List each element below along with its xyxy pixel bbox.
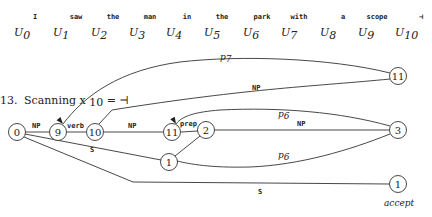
node-n11b: 11 [390,68,407,85]
node-label: 2 [203,125,209,136]
edge-2-3: NP [214,120,390,130]
edge-11b-9: p7 [57,52,390,126]
node-label: 11 [166,127,179,138]
accept-label: accept [384,198,415,208]
edge-label: prep [180,120,197,128]
step-label: Scanning x [24,94,87,107]
edge-line [181,131,198,132]
svg-text:13. Scanning x: 13. Scanning x 10 = ⊣ [0,94,129,109]
sentence-word: scope [366,13,387,21]
node-label: 11 [392,71,405,82]
node-n11a: 11 [164,124,181,141]
node-n2: 2 [198,122,215,139]
edge-10-11: NP [104,122,163,132]
sentence-word: park [254,13,272,21]
edge-9-10: verb [66,122,86,132]
edge-label: p7 [220,52,232,64]
position-label: U2 [91,26,107,42]
edge-label: NP [252,84,260,92]
node-label: 1 [395,179,401,190]
node-label: 3 [395,125,401,136]
node-n9: 9 [50,124,67,141]
position-label: U3 [129,26,145,42]
position-label: U4 [166,26,182,42]
edge-label: NP [32,122,40,130]
node-label: 10 [89,127,102,138]
position-label: U5 [204,26,220,42]
edge-line [99,79,390,124]
diagram-canvas: Isawthemanintheparkwithascope⊣ U0U1U2U3U… [0,0,432,217]
edge-label: p6 [278,109,290,121]
edge-label: NP [128,122,136,130]
sentence-word: in [183,13,191,21]
edge-3-1a: p6 [170,134,390,167]
node-label: 9 [55,127,61,138]
position-label: U10 [395,26,418,42]
node-n0: 0 [9,124,26,141]
parse-diagram: Isawthemanintheparkwithascope⊣ U0U1U2U3U… [0,0,432,217]
node-n1a: 1 [161,154,178,171]
edge-label: p6 [278,150,290,162]
edge-0-9: NP [25,122,50,132]
node-n1b: 1 [390,176,407,193]
edge-11-2: prep [180,120,198,132]
edge-line [63,58,390,124]
edge-label: S [90,146,94,154]
sentence-word: a [341,13,345,21]
sentence-word: I [33,13,37,21]
edge-label: verb [67,122,84,130]
edge-0-1b: S [24,137,390,196]
step-rest: = ⊣ [107,94,129,107]
edge-label: NP [297,120,305,128]
position-label: U1 [53,26,69,42]
sentence-words: Isawthemanintheparkwithascope⊣ [33,13,423,21]
position-label: U8 [320,26,336,42]
node-label: 0 [14,127,20,138]
position-label: U7 [281,26,297,42]
sentence-word: man [144,13,157,21]
sentence-word: with [291,13,308,21]
sentence-word: saw [70,13,83,21]
edge-label: S [258,188,262,196]
sentence-word: the [107,13,120,21]
node-label: 1 [166,157,172,168]
step-heading: 13. Scanning x 10 = ⊣ [0,94,129,109]
sentence-word: the [216,13,229,21]
position-label: U6 [243,26,259,42]
edge-line [175,136,200,156]
node-n3: 3 [390,122,407,139]
step-subscript: 10 [89,96,103,109]
edge-2-1 [175,136,200,156]
sentence-positions: U0U1U2U3U4U5U6U7U8U9U10 [14,26,418,42]
step-number: 13. [0,94,18,107]
sentence-word: ⊣ [419,13,423,21]
edge-11b-10: NP [99,79,390,124]
position-label: U9 [358,26,374,42]
position-label: U0 [14,26,30,42]
node-n10: 10 [87,124,104,141]
